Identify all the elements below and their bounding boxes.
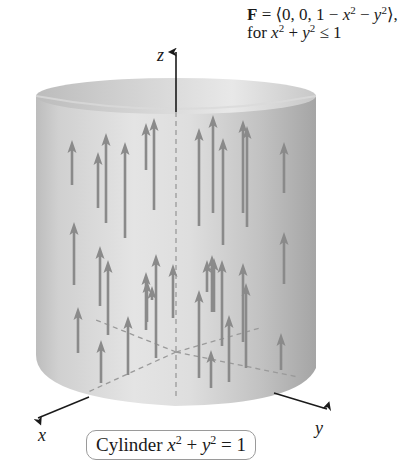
formula-line-2: for x2 + y2 ≤ 1: [247, 24, 398, 42]
vector-field-figure: [0, 0, 409, 463]
y-axis-label: y: [315, 418, 323, 439]
x-axis-label: x: [38, 425, 46, 446]
y-axis: [274, 393, 327, 409]
cylinder-label: Cylinder x2 + y2 = 1: [86, 430, 256, 460]
vector-field-formula: F = ⟨0, 0, 1 − x2 − y2⟩, for x2 + y2 ≤ 1: [247, 6, 398, 42]
x-axis: [38, 397, 89, 418]
field-symbol: F: [247, 5, 257, 24]
formula-line-1: F = ⟨0, 0, 1 − x2 − y2⟩,: [247, 6, 398, 24]
z-axis-label: z: [157, 45, 164, 66]
